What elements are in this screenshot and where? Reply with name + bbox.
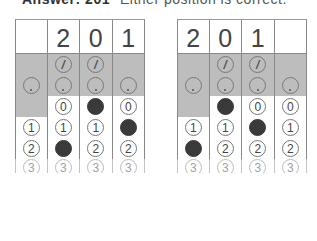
answer-box[interactable]: 2 [177,20,210,53]
digit-cell [113,117,146,138]
decimal-bubble[interactable] [87,77,104,94]
grid-in-form-right: 201001112223333 [177,19,307,173]
fraction-cell [210,54,243,75]
digit-row-1: 111 [177,117,307,138]
digit-bubble[interactable]: 3 [23,159,40,173]
digit-bubble[interactable]: 2 [23,140,40,157]
digit-cell: 3 [113,159,146,173]
decimal-bubble[interactable] [55,77,72,94]
digit-bubble[interactable]: 0 [120,98,137,115]
answer-box[interactable]: 0 [210,20,243,53]
digit-bubble[interactable]: 0 [249,98,266,115]
digit-bubble[interactable]: 0 [55,98,72,115]
digit-row-0: 00 [15,96,145,117]
digit-bubble[interactable]: 2 [282,140,299,157]
answer-box[interactable] [15,20,48,53]
answer-label: Answer: 201 [22,0,110,7]
fraction-bubble[interactable] [249,56,266,73]
digit-cell: 0 [48,96,81,117]
fraction-bubble[interactable] [87,56,104,73]
digit-bubble[interactable]: 1 [87,119,104,136]
answer-box[interactable]: 0 [80,20,113,53]
digit-bubble[interactable]: 1 [217,119,234,136]
digit-bubble[interactable]: 3 [185,159,202,173]
decimal-cell [275,75,308,96]
fraction-bubble[interactable] [217,56,234,73]
answer-box[interactable]: 1 [242,20,275,53]
decimal-bubble[interactable] [249,77,266,94]
decimal-cell [242,75,275,96]
decimal-bubble[interactable] [120,77,137,94]
digit-bubble[interactable]: 2 [120,140,137,157]
decimal-cell [15,75,48,96]
digit-bubble[interactable]: 1 [185,119,202,136]
digit-bubble[interactable]: 0 [282,98,299,115]
digit-bubble[interactable]: 3 [87,159,104,173]
digit-cell: 1 [48,117,81,138]
decimal-bubble[interactable] [185,77,202,94]
answer-entry-row: 201 [177,20,307,53]
decimal-bubble[interactable] [217,77,234,94]
digit-cell: 3 [48,159,81,173]
digit-row-3: 3333 [15,159,145,173]
digit-cell: 2 [242,138,275,159]
digit-row-1: 111 [15,117,145,138]
filled-bubble[interactable] [87,98,104,115]
fraction-cell [48,54,81,75]
digit-cell: 2 [275,138,308,159]
digit-bubble[interactable]: 1 [23,119,40,136]
answer-entry-row: 201 [15,20,145,53]
digit-cell: 1 [177,117,210,138]
decimal-bubble[interactable] [23,77,40,94]
answer-caption: Answer: 201Either position is correct. [22,0,287,7]
digit-cell: 2 [210,138,243,159]
digit-cell: 2 [15,138,48,159]
digit-bubble[interactable]: 2 [217,140,234,157]
digit-cell: 3 [15,159,48,173]
decimal-cell [48,75,81,96]
answer-note: Either position is correct. [120,0,287,7]
filled-bubble[interactable] [217,98,234,115]
digit-bubble[interactable]: 1 [55,119,72,136]
digit-cell: 3 [242,159,275,173]
digit-cell: 2 [80,138,113,159]
fraction-cell [113,54,146,75]
digit-bubble[interactable]: 3 [249,159,266,173]
digit-bubble[interactable]: 2 [249,140,266,157]
digit-row-2: 222 [177,138,307,159]
decimal-cell [210,75,243,96]
digit-cell [80,96,113,117]
filled-bubble[interactable] [120,119,137,136]
digit-row-0: 00 [177,96,307,117]
digit-cell: 1 [80,117,113,138]
digit-cell: 1 [275,117,308,138]
decimal-cell [113,75,146,96]
digit-bubble[interactable]: 3 [217,159,234,173]
digit-cell: 2 [113,138,146,159]
digit-cell: 0 [275,96,308,117]
digit-row-2: 222 [15,138,145,159]
filled-bubble[interactable] [55,140,72,157]
digit-bubble[interactable]: 3 [55,159,72,173]
digit-cell [15,96,48,117]
fraction-cell [15,54,48,75]
digit-bubble[interactable]: 2 [87,140,104,157]
fraction-bubble[interactable] [55,56,72,73]
filled-bubble[interactable] [185,140,202,157]
decimal-point-row [15,75,145,96]
digit-row-3: 3333 [177,159,307,173]
answer-box[interactable]: 2 [48,20,81,53]
filled-bubble[interactable] [249,119,266,136]
fraction-bar-row [15,53,145,75]
decimal-bubble[interactable] [282,77,299,94]
digit-bubble[interactable]: 3 [120,159,137,173]
digit-bubble[interactable]: 1 [282,119,299,136]
grid-in-form-left: 201001112223333 [15,19,145,173]
digit-cell [242,117,275,138]
digit-bubble[interactable]: 3 [282,159,299,173]
digit-cell [210,96,243,117]
decimal-cell [80,75,113,96]
answer-box[interactable]: 1 [113,20,146,53]
digit-cell [48,138,81,159]
answer-box[interactable] [275,20,308,53]
